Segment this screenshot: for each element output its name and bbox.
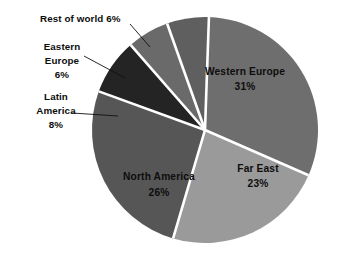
slice-label-percent: 26%: [149, 187, 170, 198]
slice-label-name: North America: [123, 171, 195, 182]
slice-label-name: Far East: [237, 163, 279, 174]
slice-label-percent: 31%: [235, 81, 256, 92]
callout-label-text: Rest of world 6%: [40, 13, 121, 24]
slice-label-percent: 23%: [248, 178, 269, 189]
callout-label-text: Europe: [45, 55, 80, 66]
slice-label-name: Western Europe: [205, 66, 285, 77]
callout-label-text: Latin: [44, 91, 68, 102]
callout-label-text: 8%: [49, 119, 64, 130]
callout-label-text: Eastern: [44, 41, 81, 52]
pie-chart-svg: Western Europe31%Far East23%North Americ…: [0, 0, 338, 266]
callout-label-text: 6%: [55, 69, 70, 80]
callout-label-text: America: [36, 105, 76, 116]
pie-chart: Western Europe31%Far East23%North Americ…: [0, 0, 338, 266]
